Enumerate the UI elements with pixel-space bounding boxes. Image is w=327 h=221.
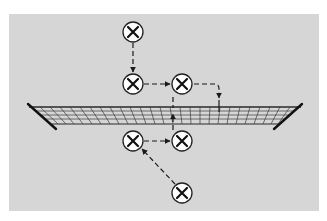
volleyball-net-icon — [28, 104, 302, 129]
player-node-f — [172, 183, 192, 203]
player-node-e — [172, 131, 192, 151]
player-node-a — [123, 22, 143, 42]
player-node-c — [172, 74, 192, 94]
player-node-b — [123, 74, 143, 94]
player-node-d — [123, 131, 143, 151]
arrow-c-to-net — [194, 84, 219, 98]
drill-diagram — [0, 0, 327, 221]
arrow-f-to-d — [142, 149, 175, 184]
